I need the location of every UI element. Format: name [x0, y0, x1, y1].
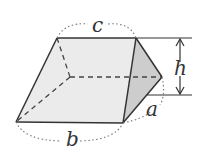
label-h: h	[174, 56, 187, 80]
prism-diagram: c h a b	[0, 0, 206, 165]
label-a: a	[146, 97, 158, 121]
label-b: b	[66, 127, 79, 151]
label-c: c	[92, 13, 103, 37]
front-face	[16, 38, 136, 123]
